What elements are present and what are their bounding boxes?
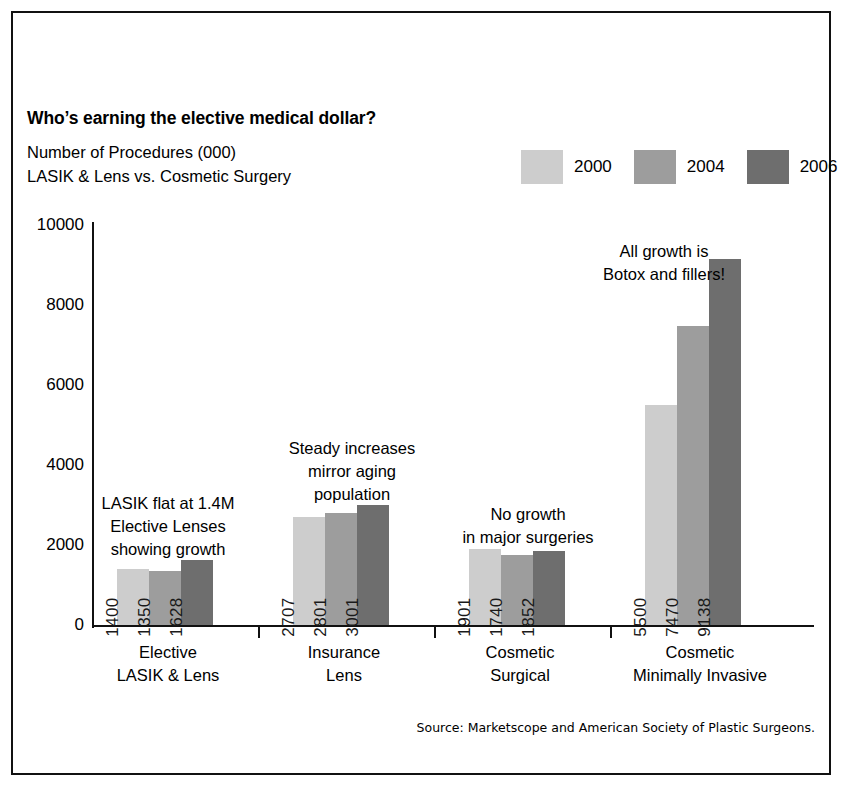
annotation-lasik: LASIK flat at 1.4M Elective Lenses showi…: [102, 492, 235, 561]
chart-legend: 2000 2004 2006: [521, 150, 837, 184]
bar-value-label: 2801: [321, 597, 341, 636]
legend-swatch-icon-2000: [521, 150, 563, 184]
bar-3-2006: 9138: [709, 259, 741, 625]
category-1-line-2: Lens: [308, 664, 380, 687]
annotation-steady-increases: Steady increases mirror aging population: [289, 437, 416, 506]
y-tick-8000: 8000: [46, 295, 84, 315]
bar-value-label: 7470: [673, 597, 693, 636]
bar-2-2006: 1852: [533, 551, 565, 625]
bar-1-2006: 3001: [357, 505, 389, 625]
bar-value-text: 1852: [519, 597, 539, 636]
bar-value-text: 7470: [663, 597, 683, 636]
annotation-1-line-3: population: [289, 483, 416, 506]
category-2-line-1: Cosmetic: [486, 641, 555, 664]
bar-value-text: 1901: [455, 597, 475, 636]
bar-value-text: 2707: [279, 597, 299, 636]
x-category-label-1: Insurance Lens: [308, 641, 380, 687]
legend-label-2006: 2006: [800, 157, 838, 177]
bar-value-label: 3001: [353, 597, 373, 636]
source-note: Source: Marketscope and American Society…: [417, 720, 815, 735]
bar-value-label: 9138: [705, 597, 725, 636]
x-category-label-3: Cosmetic Minimally Invasive: [633, 641, 767, 687]
annotation-1-line-2: mirror aging: [289, 460, 416, 483]
annotation-0-line-1: LASIK flat at 1.4M: [102, 492, 235, 515]
annotation-0-line-2: Elective Lenses: [102, 515, 235, 538]
legend-item-2004: 2004: [634, 150, 725, 184]
bar-value-label: 2707: [289, 597, 309, 636]
category-0-line-2: LASIK & Lens: [117, 664, 220, 687]
annotation-1-line-1: Steady increases: [289, 437, 416, 460]
bar-value-text: 1628: [167, 597, 187, 636]
bar-value-text: 3001: [343, 597, 363, 636]
bar-value-label: 1852: [529, 597, 549, 636]
bar-value-text: 2801: [311, 597, 331, 636]
bar-value-label: 1740: [497, 597, 517, 636]
category-1-line-1: Insurance: [308, 641, 380, 664]
annotation-3-line-2: Botox and fillers!: [603, 263, 725, 286]
x-axis-tick-2: [434, 627, 436, 638]
bar-value-text: 1350: [135, 597, 155, 636]
y-tick-10000: 10000: [37, 215, 84, 235]
y-tick-2000: 2000: [46, 535, 84, 555]
category-3-line-1: Cosmetic: [633, 641, 767, 664]
annotation-2-line-1: No growth: [462, 503, 593, 526]
y-tick-0: 0: [75, 615, 84, 635]
legend-item-2000: 2000: [521, 150, 612, 184]
annotation-botox: All growth is Botox and fillers!: [603, 240, 725, 286]
bar-value-label: 1400: [113, 597, 133, 636]
x-axis-tick-1: [258, 627, 260, 638]
bar-3-2004: 7470: [677, 326, 709, 625]
legend-swatch-icon-2006: [747, 150, 789, 184]
x-axis-tick-3: [610, 627, 612, 638]
legend-item-2006: 2006: [747, 150, 838, 184]
y-axis-tick-labels: 10000 8000 6000 4000 2000 0: [0, 0, 84, 789]
annotation-3-line-1: All growth is: [603, 240, 725, 263]
legend-label-2000: 2000: [574, 157, 612, 177]
x-category-label-2: Cosmetic Surgical: [486, 641, 555, 687]
x-category-label-0: Elective LASIK & Lens: [117, 641, 220, 687]
category-0-line-1: Elective: [117, 641, 220, 664]
bar-value-text: 1740: [487, 597, 507, 636]
legend-label-2004: 2004: [687, 157, 725, 177]
annotation-0-line-3: showing growth: [102, 538, 235, 561]
bar-value-label: 1350: [145, 597, 165, 636]
bar-value-label: 1901: [465, 597, 485, 636]
bar-value-text: 5500: [631, 597, 651, 636]
y-tick-6000: 6000: [46, 375, 84, 395]
bar-value-text: 9138: [695, 597, 715, 636]
category-3-line-2: Minimally Invasive: [633, 664, 767, 687]
bar-value-text: 1400: [103, 597, 123, 636]
bar-value-label: 1628: [177, 597, 197, 636]
bar-value-label: 5500: [641, 597, 661, 636]
legend-swatch-icon-2004: [634, 150, 676, 184]
bar-3-2000: 5500: [645, 405, 677, 625]
annotation-no-growth: No growth in major surgeries: [462, 503, 593, 549]
annotation-2-line-2: in major surgeries: [462, 526, 593, 549]
bar-0-2006: 1628: [181, 560, 213, 625]
y-tick-4000: 4000: [46, 455, 84, 475]
chart-page: Who’s earning the elective medical dolla…: [0, 0, 844, 789]
category-2-line-2: Surgical: [486, 664, 555, 687]
